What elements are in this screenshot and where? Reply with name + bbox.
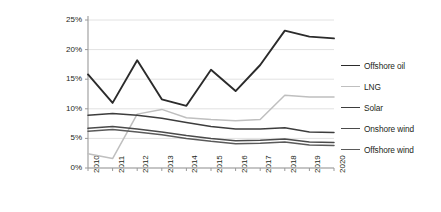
legend-label: Offshore oil: [364, 61, 405, 71]
legend-item[interactable]: Solar: [341, 97, 441, 118]
legend-item[interactable]: Offshore oil: [341, 55, 441, 76]
legend-color-swatch: [341, 86, 360, 87]
legend-color-swatch: [341, 149, 360, 150]
legend-item[interactable]: Onshore wind: [341, 118, 441, 139]
legend-item[interactable]: LNG: [341, 76, 441, 97]
series-line-offshore-oil: [88, 31, 334, 106]
legend-label: Onshore wind: [364, 124, 414, 134]
chart-container: Internal Rate of Return (%) 25%20%15%10%…: [0, 0, 441, 212]
chart-legend: Offshore oilLNGSolarOnshore windOffshore…: [341, 55, 441, 160]
legend-color-swatch: [341, 107, 360, 108]
legend-item[interactable]: Offshore wind: [341, 139, 441, 160]
legend-color-swatch: [341, 65, 360, 66]
legend-label: Solar: [364, 103, 383, 113]
series-line-solar: [88, 114, 334, 133]
legend-label: LNG: [364, 82, 381, 92]
series-line-onshore-wind: [88, 127, 334, 143]
legend-label: Offshore wind: [364, 145, 414, 155]
legend-color-swatch: [341, 128, 360, 129]
